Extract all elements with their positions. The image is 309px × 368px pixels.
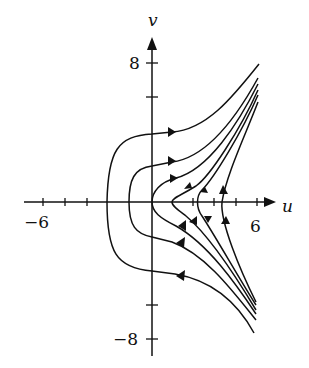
u-tick-label-6: 6 — [250, 216, 261, 236]
v-tick-label-neg8: −8 — [113, 329, 138, 349]
v-tick-label-8: 8 — [129, 53, 140, 73]
u-axis — [24, 197, 276, 207]
u-axis-label: u — [282, 196, 293, 216]
phase-portrait: v u −6 6 8 −8 — [0, 0, 309, 368]
v-axis — [146, 37, 158, 356]
u-tick-label-neg6: −6 — [24, 212, 49, 232]
v-axis-label: v — [148, 10, 158, 30]
